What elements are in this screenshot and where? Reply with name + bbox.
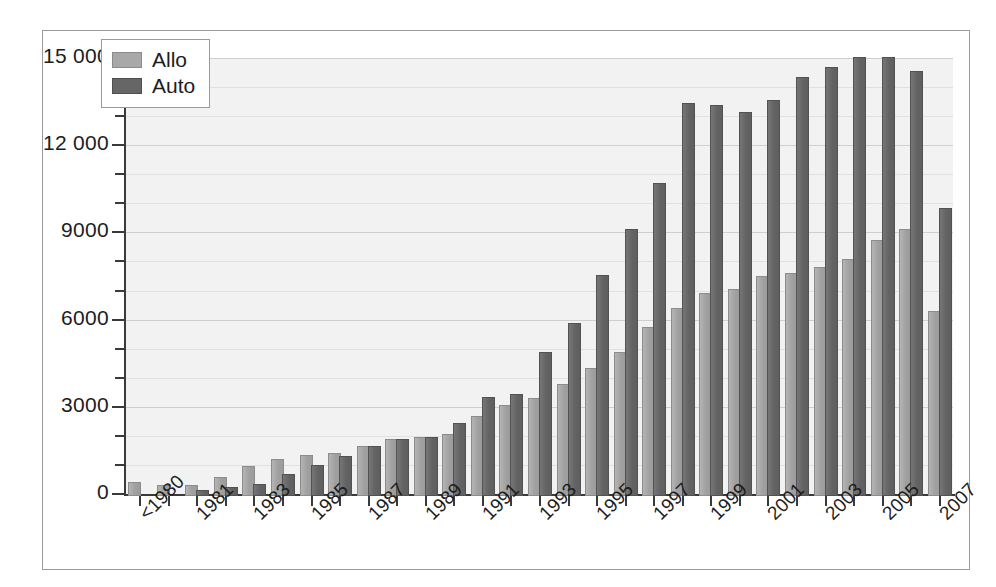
y-axis-tick-label: 9000 — [61, 218, 109, 242]
y-axis-tick — [112, 406, 124, 408]
y-axis-line — [124, 56, 126, 496]
bar-auto-2002 — [796, 77, 809, 496]
bar-auto-1995 — [596, 275, 609, 496]
y-axis-tick — [115, 377, 124, 379]
y-axis-tick — [115, 173, 124, 175]
bar-auto-2001 — [767, 100, 780, 496]
y-axis-tick — [115, 290, 124, 292]
bar-auto-1987 — [368, 446, 381, 496]
bar-allo-<1980 — [128, 482, 141, 496]
legend-swatch-auto — [112, 78, 142, 94]
y-axis-tick-label: 12 000 — [43, 131, 109, 155]
y-axis-tick-label: 0 — [97, 480, 109, 504]
legend-item-allo: Allo — [112, 47, 195, 73]
legend-label-auto: Auto — [152, 74, 195, 98]
bar-auto-1993 — [539, 352, 552, 496]
y-axis-tick — [115, 115, 124, 117]
y-axis-tick — [115, 260, 124, 262]
bar-auto-2007 — [939, 208, 952, 496]
legend-label-allo: Allo — [152, 48, 187, 72]
y-axis-tick-label: 15 000 — [43, 44, 109, 68]
bar-auto-2003 — [825, 67, 838, 496]
y-axis-tick — [112, 319, 124, 321]
y-axis-tick — [115, 435, 124, 437]
bar-auto-1992 — [510, 394, 523, 496]
y-axis-tick — [115, 464, 124, 466]
bar-auto-1989 — [425, 437, 438, 496]
y-axis-tick-labels: 030006000900012 00015 000 — [43, 31, 109, 569]
bar-auto-1998 — [682, 103, 695, 496]
y-axis-tick — [115, 348, 124, 350]
gridline — [125, 58, 953, 59]
legend-item-auto: Auto — [112, 73, 195, 99]
y-axis-tick — [112, 493, 124, 495]
y-axis-tick-label: 6000 — [61, 306, 109, 330]
bar-auto-2006 — [910, 71, 923, 496]
bar-auto-1991 — [482, 397, 495, 496]
y-axis-tick-label: 3000 — [61, 393, 109, 417]
chart-legend: Allo Auto — [101, 39, 210, 108]
bar-auto-2005 — [882, 57, 895, 496]
bar-auto-2004 — [853, 57, 866, 496]
figure-frame: 030006000900012 00015 000 <1980198119831… — [42, 30, 970, 570]
y-axis-tick — [112, 144, 124, 146]
bar-auto-1985 — [311, 465, 324, 496]
bar-auto-1997 — [653, 183, 666, 496]
bar-auto-1994 — [568, 323, 581, 496]
legend-swatch-allo — [112, 52, 142, 68]
bar-auto-2000 — [739, 112, 752, 496]
y-axis-tick — [115, 202, 124, 204]
bar-auto-1999 — [710, 105, 723, 496]
y-axis-tick — [112, 231, 124, 233]
bar-auto-1996 — [625, 229, 638, 496]
